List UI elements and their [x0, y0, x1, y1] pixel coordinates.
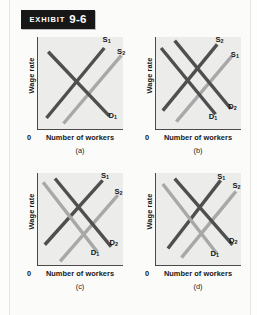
left-margin-rule — [9, 0, 10, 315]
curve-label-subscript: 2 — [235, 239, 238, 245]
curve-s2-b — [163, 44, 217, 110]
curve-label-letter: D — [229, 236, 234, 245]
panel-grid: Wage rateS1S2D10Number of workers(a)Wage… — [14, 34, 250, 306]
plot-area-c: S1S2D1D2 — [37, 173, 123, 266]
curve-s1-d — [168, 180, 221, 248]
curve-label-s2-b: S2 — [216, 36, 224, 44]
curves-c — [38, 173, 123, 265]
curve-label-subscript: 1 — [214, 115, 217, 121]
curve-s2-c — [60, 195, 118, 261]
y-axis-label: Wage rate — [27, 45, 36, 107]
curve-label-subscript: 1 — [216, 252, 219, 258]
curve-label-letter: S — [115, 187, 120, 196]
curve-label-subscript: 1 — [236, 53, 239, 59]
curve-label-letter: S — [216, 35, 221, 44]
x-axis-label: Number of workers — [155, 269, 241, 278]
panel-caption-c: (c) — [37, 282, 123, 291]
panel-caption-a: (a) — [37, 146, 123, 155]
plot-area-b: S2S1D1D2 — [155, 37, 241, 130]
curve-label-letter: S — [103, 35, 108, 44]
curve-label-d1-c: D1 — [91, 249, 99, 257]
origin-label: 0 — [145, 269, 149, 278]
curve-label-s2-d: S2 — [233, 182, 241, 190]
curve-label-s1-c: S1 — [101, 172, 109, 180]
curve-label-subscript: 1 — [222, 175, 225, 181]
plot-area-d: S1S2D1D2 — [155, 173, 241, 266]
origin-label: 0 — [27, 133, 31, 142]
curves-d — [156, 173, 241, 265]
curve-label-s2-c: S2 — [115, 188, 123, 196]
right-margin-rule — [250, 0, 251, 315]
curve-label-d2-c: D2 — [109, 239, 117, 247]
plot-area-a: S1S2D1 — [37, 37, 123, 130]
curve-label-subscript: 2 — [120, 190, 123, 196]
origin-label: 0 — [27, 269, 31, 278]
curve-label-s1-a: S1 — [103, 36, 111, 44]
curve-label-subscript: 1 — [114, 114, 117, 120]
curve-label-subscript: 2 — [115, 241, 118, 247]
panel-a: Wage rateS1S2D10Number of workers(a) — [14, 34, 132, 170]
curve-label-s2-a: S2 — [117, 48, 125, 56]
panel-d: Wage rateS1S2D1D20Number of workers(d) — [132, 170, 250, 306]
curve-label-subscript: 1 — [108, 38, 111, 44]
curve-label-d2-d: D2 — [229, 237, 237, 245]
curve-label-subscript: 1 — [96, 251, 99, 257]
x-axis-label: Number of workers — [155, 133, 241, 142]
y-axis-label: Wage rate — [145, 45, 154, 107]
curve-label-subscript: 2 — [238, 184, 241, 190]
curve-label-d1-b: D1 — [209, 113, 217, 121]
origin-label: 0 — [145, 133, 149, 142]
curve-label-s1-b: S1 — [231, 51, 239, 59]
curve-label-subscript: 2 — [122, 50, 125, 56]
panel-c: Wage rateS1S2D1D20Number of workers(c) — [14, 170, 132, 306]
curve-label-subscript: 2 — [234, 105, 237, 111]
curve-label-s1-d: S1 — [217, 173, 225, 181]
curve-label-d1-d: D1 — [210, 250, 218, 258]
curve-s1-b — [176, 55, 232, 121]
curve-s2-d — [182, 191, 236, 257]
curve-label-letter: S — [233, 181, 238, 190]
x-axis-label: Number of workers — [37, 133, 123, 142]
curves-b — [156, 37, 241, 129]
exhibit-badge-number: 9-6 — [69, 14, 86, 26]
exhibit-badge: Exhibit 9-6 — [21, 10, 95, 29]
curve-label-d2-b: D2 — [228, 103, 236, 111]
y-axis-label: Wage rate — [145, 181, 154, 243]
curve-label-d1-a: D1 — [109, 112, 117, 120]
curve-label-subscript: 1 — [106, 174, 109, 180]
exhibit-page: Exhibit 9-6 Wage rateS1S2D10Number of wo… — [0, 0, 257, 315]
panel-caption-d: (d) — [155, 282, 241, 291]
curve-label-letter: D — [228, 102, 233, 111]
y-axis-label: Wage rate — [27, 181, 36, 243]
panel-b: Wage rateS2S1D1D20Number of workers(b) — [132, 34, 250, 170]
panel-caption-b: (b) — [155, 146, 241, 155]
exhibit-badge-word: Exhibit — [29, 16, 65, 24]
curve-s1-c — [45, 180, 103, 244]
x-axis-label: Number of workers — [37, 269, 123, 278]
curve-label-subscript: 2 — [221, 38, 224, 44]
